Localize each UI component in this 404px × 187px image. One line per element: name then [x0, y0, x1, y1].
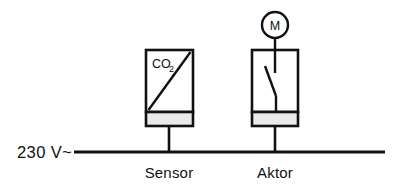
- aktor-terminal-bar: [252, 112, 298, 126]
- motor-symbol-label: M: [270, 19, 280, 33]
- sensor-terminal-bar: [146, 112, 193, 126]
- supply-voltage-label: 230 V~: [17, 143, 72, 161]
- sensor-box-label-subscript: 2: [169, 64, 174, 74]
- sensor-caption: Sensor: [145, 164, 194, 181]
- schematic-diagram: CO 2 M 230 V~ Sensor Aktor: [0, 0, 404, 187]
- aktor-caption: Aktor: [257, 164, 293, 181]
- schematic-canvas: CO 2 M 230 V~ Sensor Aktor: [0, 0, 404, 187]
